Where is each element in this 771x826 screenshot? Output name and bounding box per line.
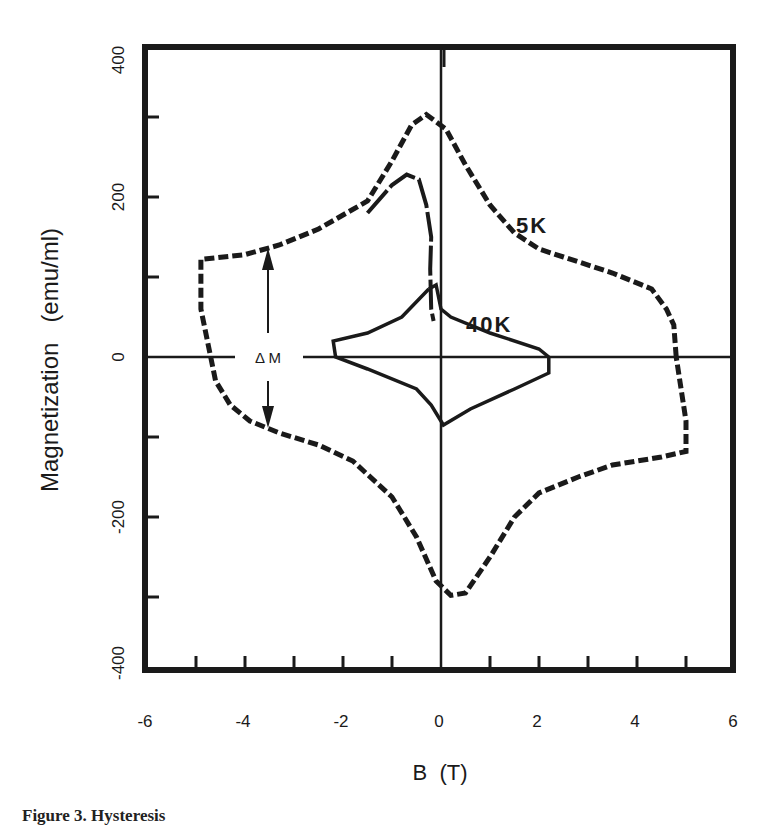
plot-frame [145, 47, 733, 670]
svg-text:6: 6 [728, 712, 737, 731]
svg-text:-400: -400 [109, 646, 128, 680]
svg-text:4: 4 [630, 712, 639, 731]
svg-text:-6: -6 [137, 712, 152, 731]
y-axis-label: Magnetization (emu/ml) [36, 228, 63, 492]
x-axis-label: B (T) [413, 760, 468, 785]
axis-tick-labels: -6-4-202464002000-200-400 [109, 46, 738, 731]
delta-m-label: Δ M [255, 349, 281, 366]
svg-text:400: 400 [109, 46, 128, 74]
curve-label-5k: 5K [516, 213, 548, 238]
svg-text:0: 0 [109, 352, 128, 361]
svg-text:-4: -4 [235, 712, 250, 731]
axis-ticks [148, 50, 686, 667]
series-5k-inner-branch [368, 175, 434, 321]
svg-text:200: 200 [109, 183, 128, 211]
svg-text:2: 2 [532, 712, 541, 731]
svg-text:-200: -200 [109, 500, 128, 534]
svg-text:-2: -2 [333, 712, 348, 731]
delta-m-arrow [262, 248, 274, 428]
figure-caption: Figure 3. Hysteresis [22, 806, 165, 826]
svg-text:0: 0 [434, 712, 443, 731]
curve-label-40k: 40K [466, 312, 512, 337]
